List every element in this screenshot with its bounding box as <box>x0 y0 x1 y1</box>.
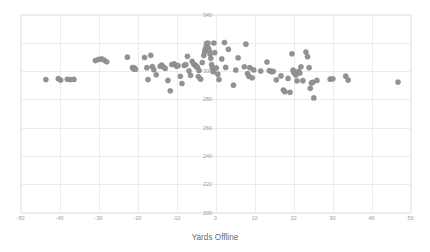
data-point <box>144 65 149 70</box>
x-tick-label: -50 <box>17 215 25 221</box>
x-tick-label: -30 <box>95 215 103 221</box>
data-point <box>163 66 168 71</box>
data-point <box>314 78 319 83</box>
data-point <box>183 62 188 67</box>
data-point <box>104 59 109 64</box>
y-tick-label: 240 <box>203 153 212 159</box>
data-point <box>305 54 310 59</box>
y-axis-tick-labels: 200220240260280300320340 <box>203 12 212 216</box>
data-point <box>151 67 156 72</box>
data-point <box>258 68 263 73</box>
data-point <box>226 47 231 52</box>
data-point <box>200 60 205 65</box>
data-point <box>300 78 305 83</box>
data-point <box>264 59 269 64</box>
y-tick-label: 280 <box>203 96 212 102</box>
data-point <box>395 80 400 85</box>
data-point <box>185 54 190 59</box>
data-point <box>330 76 335 81</box>
data-point <box>133 67 138 72</box>
data-point <box>125 55 130 60</box>
data-point <box>297 70 302 75</box>
data-point <box>208 56 213 61</box>
y-tick-label: 340 <box>203 12 212 18</box>
vertical-gridlines <box>22 15 412 213</box>
y-tick-label: 220 <box>203 181 212 187</box>
data-points <box>43 40 400 101</box>
x-tick-label: -10 <box>173 215 181 221</box>
data-point <box>307 65 312 70</box>
data-point <box>168 88 173 93</box>
data-point <box>274 77 279 82</box>
data-point <box>43 77 48 82</box>
data-point <box>271 69 276 74</box>
data-point <box>287 90 292 95</box>
data-point <box>242 64 247 69</box>
x-axis-title: Yards Offline <box>192 233 239 242</box>
y-tick-label: 300 <box>203 68 212 74</box>
data-point <box>346 78 351 83</box>
x-axis-tick-labels: -50-40-30-20-1001020304050 <box>17 215 414 221</box>
data-point <box>308 86 313 91</box>
data-point <box>282 89 287 94</box>
data-point <box>198 77 203 82</box>
data-point <box>233 67 238 72</box>
data-point <box>188 73 193 78</box>
data-point <box>215 72 220 77</box>
data-point <box>154 72 159 77</box>
data-point <box>231 83 236 88</box>
data-point <box>165 78 170 83</box>
chart-canvas: -50-40-30-20-1001020304050 2002202402602… <box>0 0 430 252</box>
data-point <box>285 76 290 81</box>
data-point <box>289 51 294 56</box>
x-tick-label: 0 <box>214 215 217 221</box>
data-point <box>250 75 255 80</box>
data-point <box>71 77 76 82</box>
data-point <box>178 74 183 79</box>
data-point <box>216 77 221 82</box>
data-point <box>175 63 180 68</box>
data-point <box>251 67 256 72</box>
data-point <box>148 53 153 58</box>
data-point <box>197 68 202 73</box>
y-tick-label: 320 <box>203 40 212 46</box>
x-tick-label: -40 <box>56 215 64 221</box>
y-tick-label: 260 <box>203 125 212 131</box>
data-point <box>278 73 283 78</box>
x-tick-label: -20 <box>134 215 142 221</box>
data-point <box>298 64 303 69</box>
data-point <box>223 65 228 70</box>
data-point <box>58 78 63 83</box>
data-point <box>211 40 216 45</box>
x-tick-label: 40 <box>369 215 375 221</box>
data-point <box>222 40 227 45</box>
x-tick-label: 30 <box>330 215 336 221</box>
data-point <box>142 55 147 60</box>
data-point <box>212 50 217 55</box>
data-point <box>179 81 184 86</box>
x-tick-label: 50 <box>408 215 414 221</box>
data-point <box>214 65 219 70</box>
data-point <box>243 42 248 47</box>
data-point <box>311 95 316 100</box>
data-point <box>219 56 224 61</box>
x-tick-label: 20 <box>291 215 297 221</box>
data-point <box>294 78 299 83</box>
data-point <box>145 77 150 82</box>
y-tick-label: 200 <box>203 210 212 216</box>
scatter-chart: -50-40-30-20-1001020304050 2002202402602… <box>0 0 430 252</box>
x-tick-label: 10 <box>252 215 258 221</box>
data-point <box>236 55 241 60</box>
